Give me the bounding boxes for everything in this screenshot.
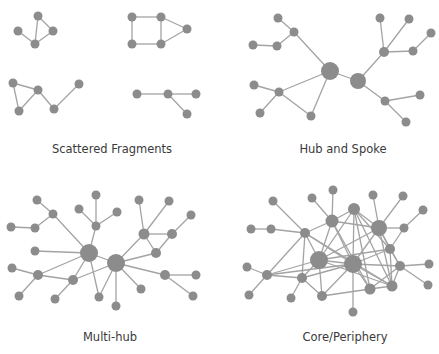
node [49,210,58,219]
hub-node [344,255,362,273]
node [297,273,307,283]
edge [322,289,370,296]
node [192,90,201,99]
node [192,271,201,280]
node [157,40,166,49]
node [267,225,276,234]
panel-multi-hub [7,191,201,311]
node [245,291,254,300]
node [300,228,310,238]
edge [271,229,305,233]
node [31,247,40,256]
node [256,109,265,118]
node [399,192,408,201]
node [348,203,360,215]
hub-node [80,244,98,262]
node [249,41,258,50]
caption-hub-and-spoke: Hub and Spoke [299,142,386,156]
node [92,222,101,231]
node [369,191,378,200]
node [34,12,43,21]
node [395,261,405,271]
node [15,292,24,301]
node [50,105,59,114]
node [419,206,428,215]
hub-node [107,254,125,272]
node [135,196,144,205]
node [34,86,43,95]
caption-core-periphery: Core/Periphery [302,330,387,344]
node [400,224,409,233]
node [326,215,339,228]
node [160,270,170,280]
hub-node [350,73,366,89]
node [307,112,316,121]
node [269,197,278,206]
node [329,186,338,195]
caption-scattered-fragments: Scattered Fragments [52,142,172,156]
node [402,118,411,127]
node [75,205,84,214]
node [9,79,18,88]
edge [267,264,353,275]
edge [165,275,193,296]
panel-core-periphery [243,186,434,317]
node [112,302,121,311]
node [33,270,43,280]
hub-node [321,62,339,80]
node [317,291,327,301]
node [75,80,84,89]
node [113,208,122,217]
node [424,281,433,290]
edge [267,275,302,278]
node [247,225,256,234]
node [165,197,174,206]
node [183,110,192,119]
node [425,260,434,269]
node [349,308,358,317]
node [189,292,198,301]
edge [38,275,73,280]
node [157,13,166,22]
edge [400,266,428,285]
node [273,42,282,51]
edge [384,19,409,52]
node [376,14,385,23]
node [49,27,58,36]
hub-node [310,251,328,269]
edge [380,18,384,52]
edge [54,84,79,109]
node [262,270,272,280]
node [290,28,299,37]
panel-hub-and-spoke [249,14,436,127]
node [427,29,436,38]
edge [302,233,305,278]
node [379,47,389,57]
node [187,211,196,220]
node [243,263,252,272]
node [92,191,101,200]
node [183,25,192,34]
node [167,229,177,239]
node [381,97,390,106]
node [137,285,146,294]
hub-node [371,220,387,236]
node [275,88,284,97]
node [308,194,317,203]
node [128,40,137,49]
node [405,15,414,24]
node [164,90,173,99]
edge [161,29,187,44]
node [8,264,17,273]
node [51,295,60,304]
node [151,248,161,258]
edge [273,201,305,233]
node [133,90,142,99]
node [31,224,40,233]
node [287,294,296,303]
node [139,229,150,240]
node [274,14,283,23]
node [409,47,418,56]
node [365,284,376,295]
panel-scattered-fragments [9,12,201,119]
